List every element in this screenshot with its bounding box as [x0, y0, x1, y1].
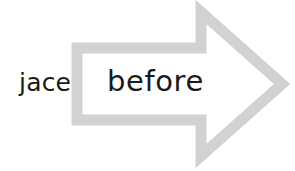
outside-label: jace [19, 70, 71, 95]
image-canvas: jace before [0, 0, 295, 171]
inside-label: before [107, 67, 204, 96]
